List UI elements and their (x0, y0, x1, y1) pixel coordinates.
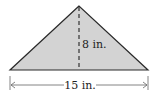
base-label: 15 in. (64, 79, 96, 92)
triangle-diagram: 8 in. 15 in. (0, 0, 157, 92)
height-label: 8 in. (82, 38, 107, 51)
